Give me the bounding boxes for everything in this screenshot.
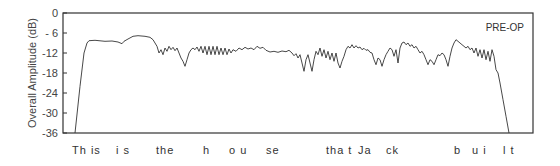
x-word-label: the	[156, 144, 174, 156]
pre-op-annotation: PRE-OP	[486, 22, 525, 33]
x-axis-word-labels: Th isi stheho usetha tJackbu il t	[72, 144, 515, 156]
x-word-label: i s	[116, 144, 130, 156]
amplitude-chart: 0- 6-12-18-24-30-36 Overall Amplitude (d…	[0, 0, 560, 166]
y-tick-label: -24	[42, 87, 58, 99]
y-tick-label: -36	[42, 127, 58, 139]
x-word-label: h	[203, 144, 210, 156]
y-tick-label: -12	[42, 47, 58, 59]
x-word-label: ck	[386, 144, 399, 156]
y-tick-label: -30	[42, 107, 58, 119]
x-word-label: se	[266, 144, 280, 156]
x-word-label: b	[454, 144, 461, 156]
x-word-label: u i	[472, 144, 487, 156]
x-word-label: tha t	[326, 144, 352, 156]
x-word-label: l t	[503, 144, 515, 156]
y-tick-label: 0	[52, 7, 58, 19]
x-word-label: Ja	[358, 144, 372, 156]
y-tick-label: -18	[42, 67, 58, 79]
x-word-label: o u	[229, 144, 247, 156]
y-tick-label: - 6	[45, 27, 58, 39]
x-word-label: Th is	[72, 144, 101, 156]
y-axis-label: Overall Amplitude (dB)	[26, 18, 38, 128]
amplitude-curve	[75, 36, 509, 133]
plot-frame	[63, 13, 533, 133]
